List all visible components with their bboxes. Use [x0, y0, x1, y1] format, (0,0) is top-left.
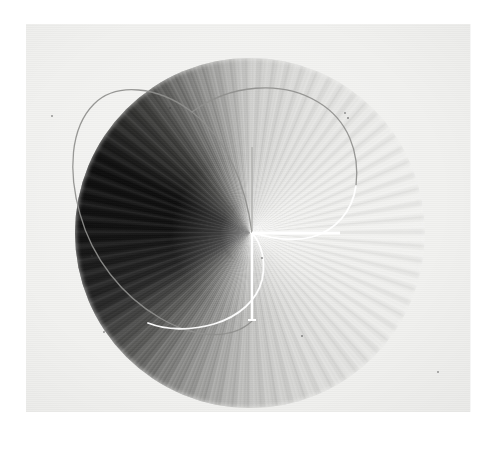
scan-speck: [202, 231, 204, 233]
disc-clip: [75, 58, 425, 408]
intensity-disc: [75, 58, 425, 408]
scan-speck: [103, 331, 105, 333]
scan-speck: [347, 117, 349, 119]
figure-page: [0, 0, 495, 459]
scan-speck: [344, 112, 346, 114]
scan-speck: [437, 371, 439, 373]
scan-speck: [169, 107, 171, 109]
scan-speck: [261, 257, 263, 259]
scan-speck: [301, 335, 303, 337]
paper-seam: [470, 24, 471, 412]
disc-radial-fringes: [75, 58, 425, 408]
